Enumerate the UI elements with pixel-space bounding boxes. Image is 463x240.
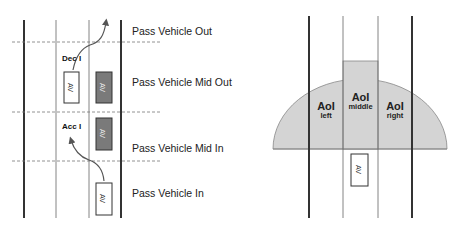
zone-label-mid-out: Pass Vehicle Mid Out — [132, 77, 232, 88]
zone-label-in: Pass Vehicle In — [132, 188, 204, 199]
zone-label-out: Pass Vehicle Out — [132, 26, 212, 37]
vehicle-label: AV — [355, 165, 362, 174]
aoi-right-label: AoI right — [378, 100, 412, 120]
vehicle-label: AV — [99, 83, 106, 92]
vehicle-label: AV — [99, 194, 106, 203]
decel-label: Dec I — [62, 55, 81, 63]
aoi-middle-label: AoI middle — [343, 91, 378, 111]
zone-label-mid-in: Pass Vehicle Mid In — [132, 143, 224, 154]
accel-label: Acc I — [62, 123, 81, 131]
aoi-left-label: AoI left — [309, 100, 343, 120]
vehicle-label: AV — [67, 83, 74, 92]
vehicle-label: AV — [99, 129, 106, 138]
